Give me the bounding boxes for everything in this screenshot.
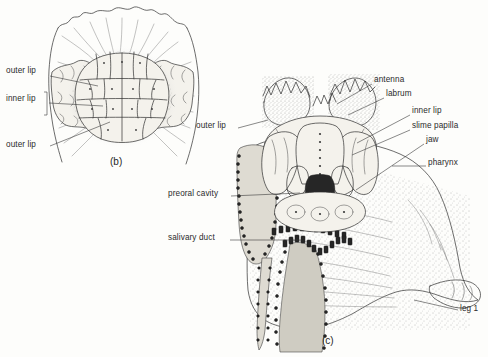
label-inner-lip-b: inner lip	[6, 95, 36, 103]
label-pharynx: pharynx	[428, 159, 458, 167]
figure-root: outer lip inner lip outer lip outer lip …	[0, 0, 488, 357]
panel-c-artwork	[230, 74, 481, 352]
caption-panel-b: (b)	[110, 156, 122, 167]
label-labrum: labrum	[386, 90, 412, 98]
label-inner-lip-c: inner lip	[412, 107, 442, 115]
label-jaw: jaw	[426, 136, 439, 144]
panel-c-preoral-cavity	[257, 242, 328, 352]
label-preoral-cavity: preoral cavity	[168, 190, 218, 198]
label-outer-lip-b-top: outer lip	[6, 67, 36, 75]
label-slime-papilla: slime papilla	[412, 122, 458, 130]
label-outer-lip-c: outer lip	[196, 122, 226, 130]
panel-c-lower-lip	[275, 192, 366, 232]
label-leg-1: leg 1	[460, 305, 478, 313]
panel-b-mouth	[75, 52, 169, 143]
label-antenna: antenna	[374, 76, 404, 84]
label-salivary-duct: salivary duct	[168, 234, 215, 242]
label-outer-lip-b-bottom: outer lip	[6, 141, 36, 149]
caption-panel-c: (c)	[322, 335, 334, 346]
figure-artwork	[0, 0, 488, 357]
panel-b-artwork	[44, 7, 199, 164]
